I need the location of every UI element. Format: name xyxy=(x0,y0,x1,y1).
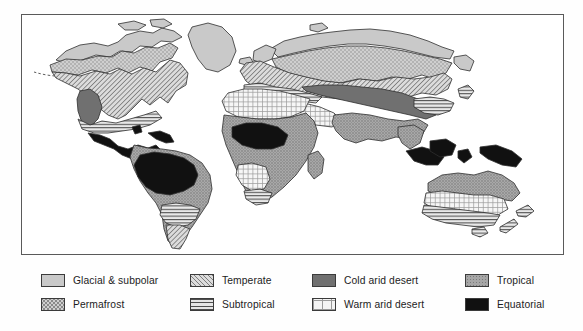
swatch-equatorial xyxy=(465,298,489,311)
legend-item-warm-arid-desert: Warm arid desert xyxy=(312,292,424,316)
world-climate-map-figure: Glacial & subpolar Permafrost Temperate … xyxy=(0,0,583,331)
new-guinea-equatorial xyxy=(480,145,522,167)
legend-label-permafrost: Permafrost xyxy=(73,299,124,310)
legend-label-cold-arid-desert: Cold arid desert xyxy=(344,275,418,286)
legend-label-warm-arid-desert: Warm arid desert xyxy=(344,299,424,310)
legend-item-permafrost: Permafrost xyxy=(41,292,158,316)
map-frame xyxy=(21,14,564,255)
patagonia-temperate xyxy=(166,225,190,249)
swatch-glacial-subpolar xyxy=(41,274,65,287)
legend-column-4: Tropical Equatorial xyxy=(465,268,544,316)
legend-column-1: Glacial & subpolar Permafrost xyxy=(41,268,158,316)
legend: Glacial & subpolar Permafrost Temperate … xyxy=(0,268,583,324)
tasmania-subtropical xyxy=(472,227,488,237)
swatch-subtropical xyxy=(190,298,214,311)
legend-label-tropical: Tropical xyxy=(497,275,534,286)
kamchatka-glacial xyxy=(454,55,474,71)
legend-item-cold-arid-desert: Cold arid desert xyxy=(312,268,424,292)
legend-label-subtropical: Subtropical xyxy=(222,299,275,310)
region-north-america xyxy=(34,19,253,159)
arctic-islands-glacial xyxy=(118,21,146,30)
legend-item-temperate: Temperate xyxy=(190,268,275,292)
swatch-warm-arid-desert xyxy=(312,298,336,311)
swatch-cold-arid-desert xyxy=(312,274,336,287)
swatch-tropical xyxy=(465,274,489,287)
florida-equatorial-edge xyxy=(132,125,142,134)
japan-subtropical xyxy=(458,85,474,99)
new-zealand-south-subtropical xyxy=(500,219,518,233)
legend-label-temperate: Temperate xyxy=(222,275,272,286)
kalahari-warm-arid xyxy=(236,163,270,191)
legend-column-2: Temperate Subtropical xyxy=(190,268,275,316)
new-zealand-subtropical xyxy=(516,205,534,217)
region-south-america xyxy=(130,145,212,249)
legend-column-3: Cold arid desert Warm arid desert xyxy=(312,268,424,316)
legend-label-equatorial: Equatorial xyxy=(497,299,544,310)
indochina-tropical xyxy=(398,125,424,149)
legend-item-subtropical: Subtropical xyxy=(190,292,275,316)
greenland-glacial xyxy=(188,23,236,72)
legend-item-tropical: Tropical xyxy=(465,268,544,292)
caribbean-equatorial xyxy=(148,131,174,143)
world-map-canvas xyxy=(22,15,563,254)
swatch-permafrost xyxy=(41,298,65,311)
ellesmere-glacial xyxy=(150,19,172,28)
madagascar-tropical xyxy=(308,151,324,179)
legend-item-glacial-subpolar: Glacial & subpolar xyxy=(41,268,158,292)
swatch-temperate xyxy=(190,274,214,287)
sulawesi-equatorial xyxy=(458,149,472,163)
legend-item-equatorial: Equatorial xyxy=(465,292,544,316)
novaya-zemlya-glacial xyxy=(310,23,328,32)
legend-label-glacial-subpolar: Glacial & subpolar xyxy=(73,275,158,286)
region-oceania xyxy=(406,139,534,237)
cape-subtropical xyxy=(244,189,272,205)
